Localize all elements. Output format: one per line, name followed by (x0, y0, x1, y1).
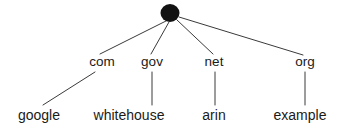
node-label-google: google (18, 108, 60, 122)
edge-group (43, 17, 305, 105)
root-node-ellipse (161, 4, 180, 22)
node-label-org: org (295, 55, 315, 69)
tree-edge-root-to-org (179, 17, 303, 55)
node-label-net: net (205, 55, 224, 69)
node-label-com: com (89, 55, 115, 69)
dns-hierarchy-diagram: comgovnetorggooglewhitehousearinexample (0, 0, 344, 133)
node-label-example: example (274, 108, 327, 122)
tree-edge-root-to-net (177, 20, 213, 54)
node-label-arin: arin (202, 108, 225, 122)
tree-edge-root-to-com (100, 21, 166, 54)
node-label-gov: gov (141, 55, 163, 69)
tree-edge-com-to-google (43, 72, 95, 105)
node-label-whitehouse: whitehouse (94, 108, 165, 122)
